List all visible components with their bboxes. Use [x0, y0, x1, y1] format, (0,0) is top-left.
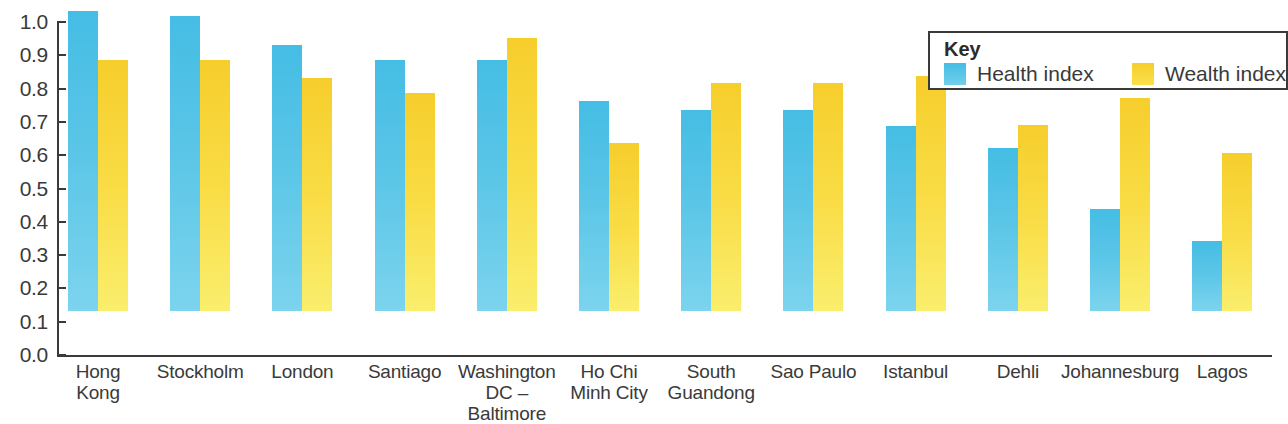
legend-swatch-health-icon — [944, 63, 966, 85]
bar-health — [375, 60, 405, 311]
bar-wealth — [507, 38, 537, 311]
legend-swatch-wealth-icon — [1132, 63, 1154, 85]
bar-health — [68, 11, 98, 311]
bar-health — [579, 101, 609, 311]
bar-health — [272, 45, 302, 311]
bar-health — [988, 148, 1018, 311]
bar-wealth — [1222, 153, 1252, 311]
legend-title: Key — [944, 38, 1286, 60]
bar-wealth — [200, 60, 230, 311]
bar-wealth — [405, 93, 435, 311]
x-axis-category-label: Lagos — [1162, 361, 1282, 382]
bar-health — [783, 110, 813, 311]
bar-health — [170, 16, 200, 311]
legend-item-health: Health index — [944, 63, 1132, 85]
bar-wealth — [98, 60, 128, 311]
bar-health — [681, 110, 711, 311]
bar-wealth — [609, 143, 639, 311]
legend: Key Health index Wealth index — [928, 31, 1288, 90]
legend-label-health: Health index — [977, 63, 1094, 85]
legend-label-wealth: Wealth index — [1165, 63, 1286, 85]
bar-wealth — [916, 76, 946, 311]
bar-health — [1090, 209, 1120, 311]
bar-wealth — [302, 78, 332, 311]
bar-wealth — [1018, 125, 1048, 311]
legend-items: Health index Wealth index — [944, 63, 1286, 85]
bar-health — [1192, 241, 1222, 311]
bar-health — [477, 60, 507, 311]
bar-wealth — [1120, 98, 1150, 311]
bar-wealth — [711, 83, 741, 311]
bar-health — [886, 126, 916, 311]
legend-item-wealth: Wealth index — [1132, 63, 1286, 85]
bar-wealth — [813, 83, 843, 311]
